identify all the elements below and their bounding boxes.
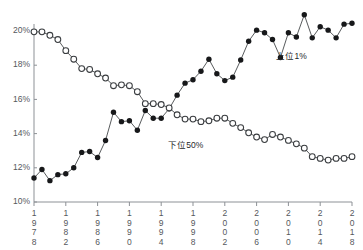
x-axis-tick-digit: 1 — [32, 208, 37, 218]
data-point-2 — [47, 32, 53, 38]
x-axis-tick-digit: 8 — [191, 237, 196, 247]
y-axis-tick-label: 10% — [13, 196, 30, 206]
data-point-1 — [55, 172, 60, 177]
x-axis-tick-digit: 7 — [32, 227, 37, 237]
x-axis-tick-label: 2014 — [318, 208, 323, 247]
series-line-1 — [34, 15, 352, 181]
y-axis-tick-label: 18% — [13, 59, 30, 69]
data-point-2 — [270, 132, 276, 138]
data-point-2 — [31, 29, 37, 35]
data-point-2 — [150, 101, 156, 107]
data-point-1 — [349, 21, 354, 26]
x-axis-tick-digit: 0 — [318, 218, 323, 228]
data-point-1 — [135, 127, 140, 132]
y-axis-tick-label: 16% — [13, 94, 30, 104]
x-axis-tick-digit: 9 — [95, 218, 100, 228]
data-point-2 — [214, 115, 220, 121]
y-axis-tick-label: 20% — [13, 25, 30, 35]
x-axis-tick-digit: 0 — [350, 218, 355, 228]
x-axis-tick-label: 1986 — [95, 208, 100, 247]
x-axis-tick-digit: 2 — [222, 208, 227, 218]
x-axis-tick-digit: 0 — [254, 218, 259, 228]
data-point-1 — [143, 108, 148, 113]
x-axis-tick-digit: 2 — [222, 237, 227, 247]
x-axis-tick-label: 1978 — [32, 208, 37, 247]
x-axis-tick-digit: 0 — [254, 227, 259, 237]
data-point-2 — [341, 155, 347, 161]
x-axis-tick-label: 1982 — [63, 208, 68, 247]
x-axis-tick-digit: 9 — [127, 218, 132, 228]
data-point-1 — [238, 57, 243, 62]
data-point-2 — [230, 120, 236, 126]
data-point-1 — [39, 167, 44, 172]
x-axis-tick-label: 2018 — [350, 208, 355, 247]
data-point-1 — [87, 149, 92, 154]
data-point-2 — [39, 29, 45, 35]
x-axis-tick-digit: 8 — [32, 237, 37, 247]
x-axis-tick-digit: 8 — [95, 227, 100, 237]
x-axis-tick-digit: 1 — [191, 208, 196, 218]
x-axis-tick-digit: 0 — [222, 218, 227, 228]
x-axis-tick-digit: 2 — [63, 237, 68, 247]
x-axis-tick-digit: 9 — [63, 218, 68, 228]
x-axis-tick-digit: 9 — [159, 218, 164, 228]
data-point-2 — [309, 154, 315, 160]
data-point-2 — [198, 119, 204, 125]
x-axis-tick-digit: 1 — [95, 208, 100, 218]
data-point-2 — [134, 89, 140, 95]
data-point-2 — [142, 101, 148, 107]
data-point-1 — [254, 27, 259, 32]
data-point-1 — [198, 68, 203, 73]
data-point-1 — [341, 21, 346, 26]
data-point-2 — [111, 83, 117, 89]
data-point-1 — [95, 155, 100, 160]
data-point-1 — [111, 110, 116, 115]
data-point-2 — [55, 37, 61, 43]
data-point-2 — [301, 145, 307, 151]
x-axis-tick-digit: 9 — [159, 227, 164, 237]
data-point-2 — [286, 138, 292, 144]
data-point-2 — [293, 141, 299, 147]
x-axis-tick-digit: 1 — [63, 208, 68, 218]
x-axis-tick-label: 2010 — [286, 208, 291, 247]
x-axis-tick-digit: 1 — [318, 227, 323, 237]
data-point-1 — [318, 24, 323, 29]
series-annotation-2: 下位50% — [168, 140, 203, 150]
x-axis-tick-digit: 2 — [350, 208, 355, 218]
data-point-1 — [333, 35, 338, 40]
data-point-1 — [294, 34, 299, 39]
data-point-2 — [103, 75, 109, 81]
line-chart: 10%12%14%16%18%20% 197819821986199019941… — [0, 0, 363, 250]
data-point-2 — [87, 67, 93, 73]
x-axis-tick-digit: 9 — [191, 227, 196, 237]
data-point-2 — [206, 118, 212, 124]
x-axis-labels: 1978198219861990199419982002200620102014… — [32, 208, 355, 247]
data-point-1 — [47, 178, 52, 183]
x-axis-tick-label: 2006 — [254, 208, 259, 247]
data-point-1 — [230, 74, 235, 79]
x-axis-tick-digit: 1 — [286, 227, 291, 237]
x-axis-tick-label: 1994 — [159, 208, 164, 247]
data-point-1 — [262, 30, 267, 35]
x-axis-tick-digit: 2 — [286, 208, 291, 218]
data-point-2 — [190, 116, 196, 122]
data-point-2 — [246, 130, 252, 136]
x-axis-tick-digit: 1 — [350, 227, 355, 237]
x-axis-tick-label: 1990 — [127, 208, 132, 247]
data-point-2 — [182, 116, 188, 122]
x-axis-tick-digit: 6 — [95, 237, 100, 247]
y-axis-tick-label: 14% — [13, 128, 30, 138]
y-axis-labels: 10%12%14%16%18%20% — [13, 25, 30, 206]
data-point-1 — [79, 150, 84, 155]
data-point-1 — [246, 39, 251, 44]
data-point-2 — [63, 48, 69, 54]
x-axis-tick-digit: 1 — [127, 208, 132, 218]
data-point-1 — [286, 30, 291, 35]
data-point-1 — [31, 175, 36, 180]
data-point-1 — [214, 71, 219, 76]
data-point-1 — [71, 165, 76, 170]
data-point-2 — [174, 112, 180, 118]
data-point-2 — [222, 115, 228, 121]
x-axis-tick-digit: 2 — [318, 208, 323, 218]
data-point-1 — [159, 116, 164, 121]
